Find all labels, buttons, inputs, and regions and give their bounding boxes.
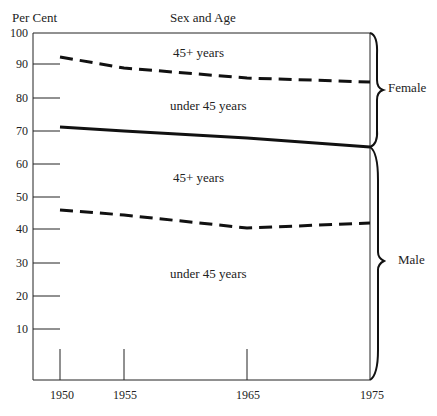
x-ticks xyxy=(60,349,247,380)
y-tick-label: 40 xyxy=(0,222,28,237)
y-tick-label: 80 xyxy=(0,91,28,106)
x-tick-label: 1950 xyxy=(50,388,74,403)
y-tick-label: 20 xyxy=(0,289,28,304)
region-label-female-45plus: 45+ years xyxy=(173,45,224,61)
y-tick-label: 10 xyxy=(0,322,28,337)
brace-label-male: Male xyxy=(398,252,425,268)
plot-frame xyxy=(33,33,370,380)
region-label-male-under45: under 45 years xyxy=(170,266,247,282)
y-ticks xyxy=(33,64,60,329)
sex-boundary-line xyxy=(60,127,370,147)
y-tick-label: 100 xyxy=(0,26,28,41)
female-brace xyxy=(370,33,383,147)
male-age-boundary-line xyxy=(60,210,370,228)
y-tick-label: 60 xyxy=(0,157,28,172)
brace-label-female: Female xyxy=(388,80,426,96)
y-tick-label: 90 xyxy=(0,57,28,72)
chart-title: Sex and Age xyxy=(170,10,236,26)
x-tick-label: 1955 xyxy=(113,388,137,403)
y-tick-label: 70 xyxy=(0,124,28,139)
y-tick-label: 50 xyxy=(0,190,28,205)
region-label-female-under45: under 45 years xyxy=(170,98,247,114)
region-label-male-45plus: 45+ years xyxy=(173,170,224,186)
chart-canvas xyxy=(0,0,437,416)
x-tick-label: 1965 xyxy=(236,388,260,403)
male-brace xyxy=(370,147,384,380)
y-tick-label: 30 xyxy=(0,256,28,271)
x-tick-label: 1975 xyxy=(360,388,384,403)
y-axis-label: Per Cent xyxy=(12,10,57,26)
